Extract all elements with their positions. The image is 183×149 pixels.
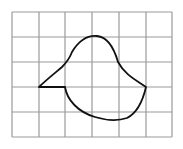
- grid-diagram: [0, 0, 183, 149]
- grid-lines: [12, 12, 172, 137]
